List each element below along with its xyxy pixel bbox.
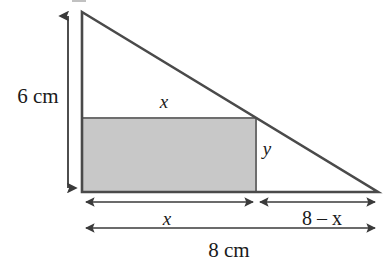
rectangle-right-label: y bbox=[263, 139, 271, 158]
height-label: 6 cm bbox=[17, 86, 58, 107]
rectangle-top-label: x bbox=[160, 92, 168, 111]
base-total-label: 8 cm bbox=[208, 240, 249, 261]
inscribed-rectangle bbox=[82, 118, 256, 192]
figure-container: 6 cm x y x 8 – x 8 cm bbox=[0, 0, 390, 268]
scan-artifact-mark bbox=[72, 0, 86, 2]
base-remainder-label: 8 – x bbox=[302, 208, 342, 228]
base-x-label: x bbox=[163, 209, 171, 228]
